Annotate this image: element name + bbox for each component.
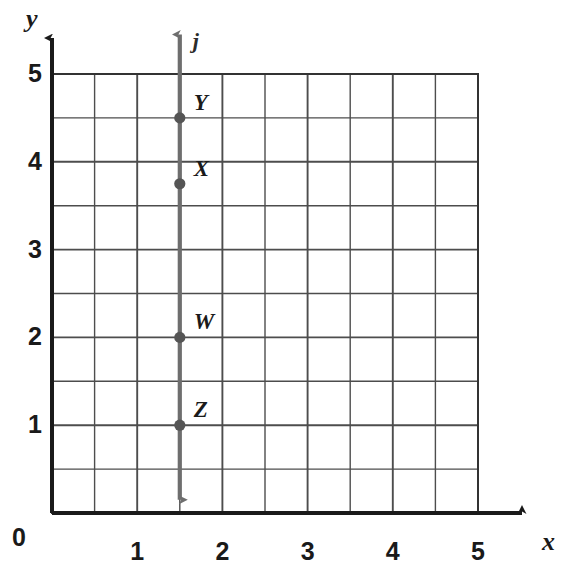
point-label-x: X xyxy=(194,157,209,180)
y-tick-label-4: 4 xyxy=(2,149,42,174)
y-tick-label-5: 5 xyxy=(2,61,42,86)
y-tick-label-0: 0 xyxy=(12,525,26,550)
x-tick-label-5: 5 xyxy=(458,539,498,564)
line-label-j: j xyxy=(193,30,199,52)
y-tick-label-3: 3 xyxy=(2,237,42,262)
graph-canvas xyxy=(0,0,570,566)
point-z xyxy=(174,420,185,431)
y-tick-label-1: 1 xyxy=(2,412,42,437)
point-x xyxy=(174,178,185,189)
point-label-w: W xyxy=(194,310,214,333)
point-label-y: Y xyxy=(194,91,208,114)
y-axis-label: y xyxy=(26,6,38,32)
x-tick-label-2: 2 xyxy=(202,539,242,564)
x-tick-label-1: 1 xyxy=(117,539,157,564)
coordinate-plane-figure: 12345012345yxjYXWZ xyxy=(0,0,570,566)
x-tick-label-3: 3 xyxy=(288,539,328,564)
x-axis-label: x xyxy=(542,529,555,555)
x-tick-label-4: 4 xyxy=(373,539,413,564)
point-y xyxy=(174,112,185,123)
y-tick-label-2: 2 xyxy=(2,324,42,349)
minor-gridlines xyxy=(52,74,478,513)
point-label-z: Z xyxy=(194,398,208,421)
point-w xyxy=(174,332,185,343)
